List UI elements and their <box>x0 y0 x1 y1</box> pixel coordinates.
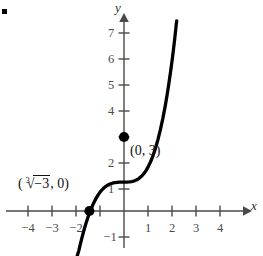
radical-sign-icon: √ <box>27 176 35 191</box>
graph-figure: y x −4 −3 −2 1 2 3 4 −1 1 2 4 5 6 7 (0, … <box>0 0 263 256</box>
coordinate-plane <box>0 0 263 256</box>
x-tick-label-3: 3 <box>193 222 199 235</box>
y-tick-label-2: 2 <box>108 157 114 170</box>
x-tick-label-1: 1 <box>145 222 151 235</box>
x-tick-label--3: −3 <box>45 222 58 235</box>
x-tick-label--2: −2 <box>69 222 82 235</box>
x-tick-label-2: 2 <box>169 222 175 235</box>
y-tick-label-7: 7 <box>108 27 114 40</box>
radicand: −3 <box>33 175 50 191</box>
point-x-intercept <box>84 206 94 216</box>
y-tick-label-5: 5 <box>108 79 114 92</box>
y-tick-label--1: −1 <box>103 231 116 244</box>
y-intercept-annotation: (0, 3) <box>130 144 160 158</box>
x-tick-label--4: −4 <box>21 222 34 235</box>
y-tick-label-1: 1 <box>108 183 114 196</box>
y-tick-label-4: 4 <box>108 105 114 118</box>
x-axis-label: x <box>251 199 257 212</box>
x-tick-label-4: 4 <box>217 222 223 235</box>
x-intercept-annotation: (3√−3, 0) <box>18 177 69 191</box>
point-y-intercept <box>119 132 129 142</box>
y-tick-label-6: 6 <box>108 53 114 66</box>
y-axis-label: y <box>115 1 121 14</box>
paren-close-zero: , 0) <box>50 176 69 191</box>
cube-root-expression: 3√−3 <box>23 177 51 191</box>
